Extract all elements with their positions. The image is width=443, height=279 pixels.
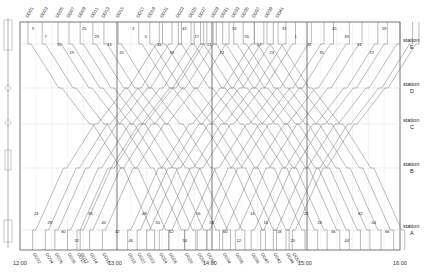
- bottom-train-id: DD02: [32, 252, 42, 265]
- bottom-train-id: DD40: [260, 252, 270, 265]
- connection-label: 62: [358, 211, 363, 216]
- connection-label: 22: [304, 211, 309, 216]
- connection-label: 30: [61, 229, 66, 234]
- connection-label: 24: [34, 211, 39, 216]
- train-path-down: [278, 22, 405, 250]
- connection-label: 26: [318, 220, 323, 225]
- connection-label: 34: [157, 42, 162, 47]
- top-train-id: DD19: [146, 6, 156, 19]
- station-letter: B: [410, 168, 414, 174]
- connection-label: 12: [237, 238, 242, 243]
- top-train-id: DD07: [66, 6, 76, 19]
- time-tick-label: 12:00: [13, 260, 27, 266]
- connection-label: 55: [245, 34, 250, 39]
- top-train-id: DD39: [264, 6, 274, 19]
- top-train-id: DD01: [24, 6, 34, 19]
- connection-label: 16: [264, 220, 269, 225]
- station-letter: E: [410, 44, 414, 50]
- connection-label: 21: [207, 42, 212, 47]
- bottom-train-id: DD42: [272, 252, 282, 265]
- connection-label: 7: [45, 34, 48, 39]
- connection-label: 42: [115, 229, 120, 234]
- connection-label: 44: [345, 238, 350, 243]
- top-train-id: DD09: [77, 6, 87, 19]
- top-train-id: DD23: [175, 6, 185, 19]
- connection-label: 5: [145, 34, 148, 39]
- station-labels: stationEstationDstationCstationBstationA: [403, 37, 419, 236]
- bottom-train-id: DD24: [158, 252, 168, 265]
- connection-label: 28: [48, 220, 53, 225]
- connection-label: 14: [250, 211, 255, 216]
- bottom-train-id: DD18: [127, 252, 137, 265]
- bottom-train-id: DD28: [184, 252, 194, 265]
- connection-label: 49: [345, 34, 350, 39]
- connection-label: 31: [282, 26, 287, 31]
- connection-label: 50: [156, 220, 161, 225]
- train-path-up: [77, 22, 204, 250]
- time-tick-label: 14:00: [203, 260, 217, 266]
- connection-label: 1: [295, 34, 298, 39]
- top-train-id: DD31: [219, 6, 229, 19]
- bottom-train-id: DD38: [250, 252, 260, 265]
- connection-label: 59: [382, 26, 387, 31]
- bottom-train-id: DD20: [136, 252, 146, 265]
- train-timetable-diagram: 9715192529334135343943172113535527233111…: [0, 0, 443, 279]
- connection-label: 9: [32, 26, 35, 31]
- top-train-id: DD15: [115, 6, 125, 19]
- station-label: station: [403, 37, 419, 43]
- time-tick-label: 15:00: [298, 260, 312, 266]
- top-train-id: DD35: [240, 6, 250, 19]
- top-train-id: DD37: [251, 6, 261, 19]
- train-path-up: [185, 22, 312, 250]
- connection-label: 40: [102, 220, 107, 225]
- bottom-train-id: DD34: [222, 252, 232, 265]
- top-train-id: DD03: [39, 6, 49, 19]
- top-train-id: DD27: [197, 6, 207, 19]
- station-letter: C: [410, 124, 414, 130]
- bottom-train-id: DD22: [146, 252, 156, 265]
- connection-label: 41: [120, 50, 125, 55]
- connection-label: 51: [357, 42, 362, 47]
- connection-label: 53: [232, 26, 237, 31]
- connection-label: 36: [331, 229, 336, 234]
- connection-label: 46: [129, 238, 134, 243]
- connection-label: 25: [82, 26, 87, 31]
- bottom-train-id: DD08: [67, 252, 77, 265]
- connection-label: 32: [75, 238, 80, 243]
- bottom-train-id: DD36: [234, 252, 244, 265]
- connection-label: 27: [257, 42, 262, 47]
- connection-label: 33: [107, 42, 112, 47]
- station-schematic: [4, 18, 12, 248]
- connection-label: 3: [132, 26, 135, 31]
- top-train-id: DD13: [100, 6, 110, 19]
- time-tick-label: 16:00: [393, 260, 407, 266]
- connection-label: 20: [291, 238, 296, 243]
- station-letter: D: [410, 88, 414, 94]
- connection-label: 18: [277, 229, 282, 234]
- top-train-id: DD11: [89, 6, 99, 19]
- connection-labels-top: 9715192529334135343943172113535527233111…: [32, 26, 387, 55]
- station-label: station: [403, 223, 419, 229]
- top-train-id: DD41: [275, 6, 285, 19]
- top-train-id: DD21: [159, 6, 169, 19]
- connection-label: 64: [372, 220, 377, 225]
- connection-label: 15: [57, 42, 62, 47]
- bottom-train-id: DD26: [168, 252, 178, 265]
- station-label: station: [403, 117, 419, 123]
- bottom-train-id: DD04: [44, 252, 54, 265]
- connection-label: 17: [195, 34, 200, 39]
- time-tick-label: 13:00: [108, 260, 122, 266]
- connection-label: 58: [210, 220, 215, 225]
- bottom-train-ids: DD02DD04DD06DD08DD10DD12DD14DD16DD18DD20…: [32, 252, 302, 265]
- connection-label: 48: [142, 211, 147, 216]
- connection-label: 60: [223, 229, 228, 234]
- connection-label: 43: [182, 26, 187, 31]
- connection-label: 13: [220, 50, 225, 55]
- connection-label: 45: [332, 26, 337, 31]
- bottom-train-id: DD14: [89, 252, 99, 265]
- connection-label: 35: [320, 50, 325, 55]
- connection-label: 38: [88, 211, 93, 216]
- top-train-id: DD05: [55, 6, 65, 19]
- top-train-id: DD17: [135, 6, 145, 19]
- connection-label: 19: [70, 50, 75, 55]
